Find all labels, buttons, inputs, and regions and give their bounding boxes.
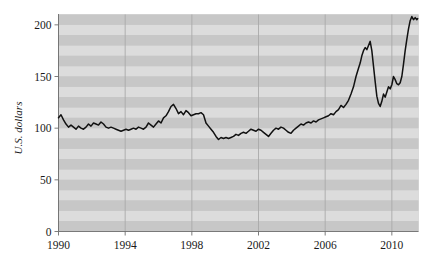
band-stripe [59, 15, 419, 25]
y-tick-label: 50 [40, 174, 52, 186]
x-tick-label: 2002 [247, 239, 270, 251]
band-stripe [59, 159, 419, 169]
band-stripe [59, 97, 419, 107]
y-tick-label: 0 [46, 226, 52, 238]
band-stripe [59, 139, 419, 149]
y-tick-label: 100 [34, 122, 52, 134]
band-stripe [59, 201, 419, 211]
y-axis-tick-labels: 050100150200 [34, 19, 52, 238]
band-stripe [59, 87, 419, 97]
band-stripe [59, 35, 419, 45]
band-stripe [59, 211, 419, 221]
band-stripe [59, 108, 419, 118]
line-chart: 050100150200 199019941998200220062010 U.… [0, 0, 436, 278]
band-stripe [59, 190, 419, 200]
chart-figure: 050100150200 199019941998200220062010 U.… [0, 0, 436, 278]
band-stripe [59, 56, 419, 66]
band-stripe [59, 25, 419, 35]
y-tick-label: 200 [34, 19, 52, 31]
x-tick-label: 1990 [47, 239, 70, 251]
band-stripe [59, 170, 419, 180]
y-tick-label: 150 [34, 71, 52, 83]
band-stripe [59, 46, 419, 56]
y-axis-title-label: U.S. dollars [12, 102, 24, 155]
band-stripe [59, 221, 419, 231]
band-stripe [59, 66, 419, 76]
x-tick-label: 2010 [380, 239, 403, 251]
alternating-bands [59, 15, 419, 232]
band-stripe [59, 180, 419, 190]
band-stripe [59, 77, 419, 87]
x-tick-label: 1994 [114, 239, 137, 251]
band-stripe [59, 118, 419, 128]
x-axis-tick-labels: 199019941998200220062010 [47, 239, 404, 251]
band-stripe [59, 128, 419, 138]
band-stripe [59, 149, 419, 159]
x-tick-label: 1998 [180, 239, 203, 251]
x-tick-label: 2006 [314, 239, 337, 251]
y-axis-title: U.S. dollars [12, 102, 24, 155]
